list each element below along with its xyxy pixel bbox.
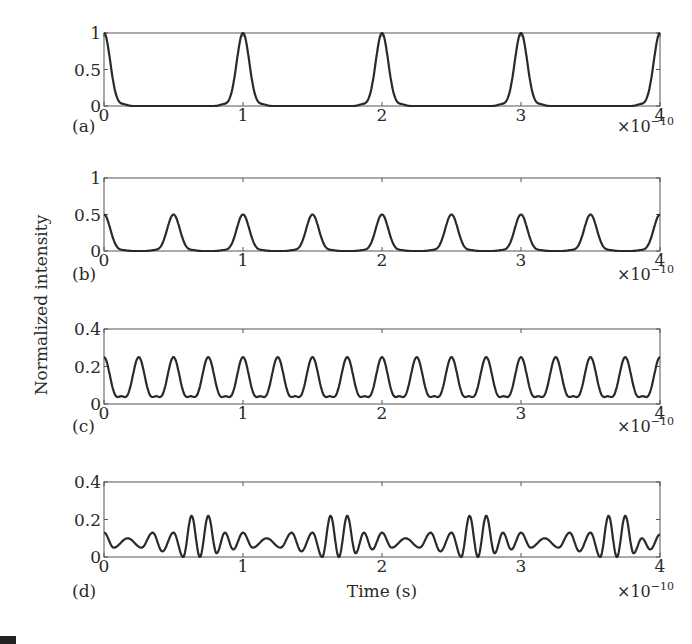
x-multiplier-label: ×10−10 <box>617 115 674 136</box>
plot-frame <box>104 33 660 106</box>
cropped-figure-number-fragment <box>0 636 16 644</box>
chart-panel-c: 0123400.20.4(c)×10−10 <box>72 319 674 436</box>
panel-label: (d) <box>72 581 96 601</box>
chart-panel-b: 0123400.51(b)×10−10 <box>72 168 674 284</box>
y-tick-label: 1 <box>90 23 101 43</box>
panel-label: (b) <box>72 264 96 284</box>
x-tick-label: 2 <box>377 250 388 270</box>
y-tick-label: 0.2 <box>74 357 101 377</box>
y-tick-label: 0.4 <box>74 319 101 339</box>
y-tick-label: 0.4 <box>74 472 101 492</box>
chart-panel-a: 0123400.51(a)×10−10 <box>72 23 674 136</box>
y-tick-label: 0 <box>90 96 101 116</box>
x-tick-label: 2 <box>377 403 388 423</box>
y-tick-label: 1 <box>90 168 101 188</box>
y-tick-label: 0 <box>90 394 101 414</box>
x-tick-label: 1 <box>238 403 249 423</box>
intensity-curve <box>104 516 660 557</box>
x-tick-label: 3 <box>516 250 527 270</box>
x-tick-label: 1 <box>238 556 249 576</box>
y-tick-label: 0.2 <box>74 510 101 530</box>
x-tick-label: 1 <box>238 250 249 270</box>
x-multiplier-label: ×10−10 <box>617 263 674 284</box>
x-multiplier-label: ×10−10 <box>617 580 674 601</box>
intensity-curve <box>104 215 660 252</box>
panel-label: (a) <box>72 116 95 136</box>
x-multiplier-label: ×10−10 <box>617 415 674 436</box>
y-axis-label: Normalized intensity <box>31 214 51 395</box>
x-tick-label: 3 <box>516 556 527 576</box>
x-tick-label: 3 <box>516 403 527 423</box>
x-tick-label: 2 <box>377 105 388 125</box>
x-tick-label: 3 <box>516 105 527 125</box>
panel-label: (c) <box>72 416 95 436</box>
y-tick-label: 0 <box>90 241 101 261</box>
intensity-curve <box>104 357 660 397</box>
plot-frame <box>104 329 660 404</box>
y-tick-label: 0.5 <box>74 205 101 225</box>
x-tick-label: 1 <box>238 105 249 125</box>
y-tick-label: 0.5 <box>74 60 101 80</box>
x-tick-label: 2 <box>377 556 388 576</box>
x-tick-label: 4 <box>655 556 666 576</box>
y-tick-label: 0 <box>90 547 101 567</box>
figure-canvas: 0123400.51(a)×10−100123400.51(b)×10−1001… <box>0 0 692 644</box>
intensity-curve <box>104 33 660 106</box>
x-axis-label: Time (s) <box>347 581 417 601</box>
